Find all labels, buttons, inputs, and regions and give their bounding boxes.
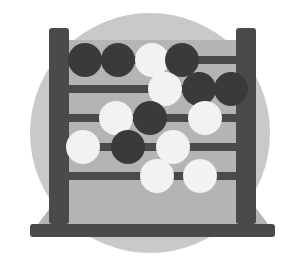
abacus-bead-light-r2-1[interactable] xyxy=(148,72,182,106)
abacus-bead-row-4 xyxy=(66,130,190,164)
abacus-bead-row-2 xyxy=(148,72,248,106)
abacus-bead-dark-r1-4[interactable] xyxy=(165,43,199,77)
abacus-right-post xyxy=(236,28,256,224)
abacus-bead-light-r5-2[interactable] xyxy=(183,159,217,193)
abacus-svg-root xyxy=(0,0,299,259)
abacus-bead-light-r5-1[interactable] xyxy=(140,159,174,193)
abacus-bead-dark-r2-3[interactable] xyxy=(214,72,248,106)
abacus-illustration xyxy=(0,0,299,259)
abacus-bead-dark-r2-2[interactable] xyxy=(182,72,216,106)
abacus-left-post xyxy=(49,28,69,224)
abacus-bead-light-r3-3[interactable] xyxy=(188,101,222,135)
abacus-bead-row-3 xyxy=(99,101,222,135)
abacus-base-plinth xyxy=(38,208,268,224)
abacus-bead-light-r4-1[interactable] xyxy=(66,130,100,164)
abacus-bead-light-r1-3[interactable] xyxy=(135,43,169,77)
abacus-bead-dark-r1-2[interactable] xyxy=(101,43,135,77)
abacus-bead-dark-r1-1[interactable] xyxy=(68,43,102,77)
abacus-base-bar xyxy=(30,224,275,237)
abacus-bead-dark-r4-2[interactable] xyxy=(111,130,145,164)
abacus-bead-dark-r3-2[interactable] xyxy=(133,101,167,135)
abacus-bead-light-r4-3[interactable] xyxy=(156,130,190,164)
abacus-bead-light-r3-1[interactable] xyxy=(99,101,133,135)
